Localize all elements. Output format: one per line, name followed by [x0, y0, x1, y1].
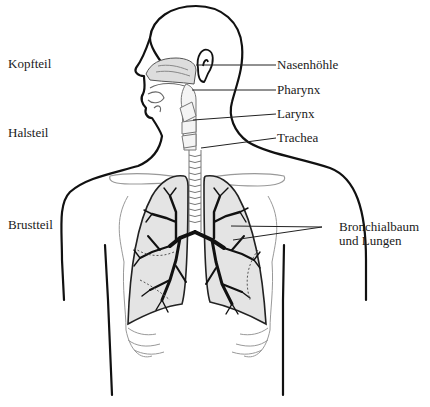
respiratory-system-diagram: Kopfteil Halsteil Brustteil Nasenhöhle P… [0, 0, 430, 407]
ear [198, 50, 213, 82]
leader-trachea [201, 138, 276, 148]
label-halsteil: Halsteil [8, 126, 48, 140]
label-brustteil: Brustteil [8, 218, 53, 232]
label-larynx: Larynx [277, 107, 315, 121]
label-trachea: Trachea [277, 131, 318, 145]
nasal-cavity [146, 58, 196, 84]
label-und-lungen: und Lungen [339, 234, 401, 248]
anatomy-illustration [0, 0, 430, 407]
larynx-structure [180, 84, 196, 150]
label-kopfteil: Kopfteil [8, 57, 51, 71]
trachea [189, 150, 201, 232]
leader-larynx [193, 114, 276, 120]
label-bronchialbaum: Bronchialbaum [339, 220, 419, 234]
label-pharynx: Pharynx [277, 83, 320, 97]
label-nasenhoehle: Nasenhöhle [277, 58, 338, 72]
